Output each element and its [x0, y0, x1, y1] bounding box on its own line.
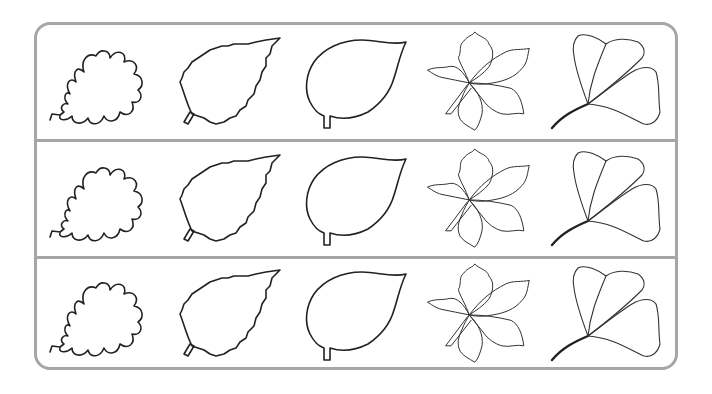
chestnut-leaf-icon — [422, 149, 542, 249]
linden-leaf-icon — [296, 149, 416, 249]
chestnut-leaf-icon — [422, 32, 542, 132]
worksheet-frame — [34, 22, 678, 370]
linden-leaf-icon — [296, 264, 416, 364]
birch-leaf-icon — [170, 264, 290, 364]
leaf-row-1 — [37, 25, 675, 139]
oak-leaf-icon — [44, 264, 164, 364]
chestnut-leaf-icon — [422, 264, 542, 364]
ginkgo-leaf-icon — [548, 149, 668, 249]
leaf-row-3 — [37, 259, 675, 369]
leaf-row-2 — [37, 142, 675, 256]
oak-leaf-icon — [44, 149, 164, 249]
ginkgo-leaf-icon — [548, 264, 668, 364]
birch-leaf-icon — [170, 149, 290, 249]
birch-leaf-icon — [170, 32, 290, 132]
linden-leaf-icon — [296, 32, 416, 132]
ginkgo-leaf-icon — [548, 32, 668, 132]
oak-leaf-icon — [44, 32, 164, 132]
